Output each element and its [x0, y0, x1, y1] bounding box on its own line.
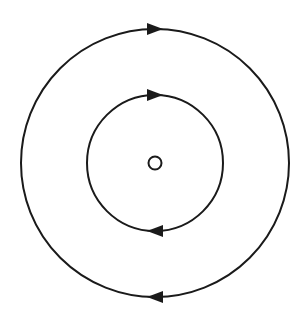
- inner-ring-top-arrow-icon: [147, 89, 163, 101]
- inner-ring-group: [87, 89, 223, 237]
- outer-ring-top-arrow-icon: [147, 23, 163, 35]
- center-core-circle: [149, 157, 162, 170]
- inner-ring-bottom-arrow-icon: [147, 225, 163, 237]
- inner-ring: [87, 95, 223, 231]
- outer-ring: [21, 29, 289, 297]
- outer-ring-group: [21, 23, 289, 303]
- concentric-orbit-diagram: [0, 0, 306, 321]
- outer-ring-bottom-arrow-icon: [147, 291, 163, 303]
